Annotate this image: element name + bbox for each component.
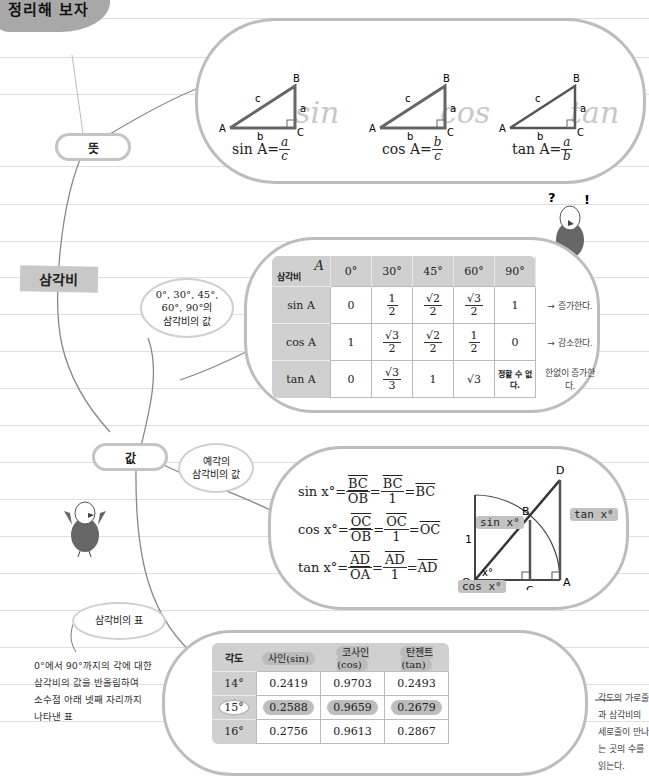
table-cell: 1 — [495, 287, 536, 324]
label-line: 60°, 90°의 — [156, 301, 219, 315]
script-word-tan: tan — [570, 95, 619, 130]
numerator: OC — [384, 515, 409, 530]
node-value: 값 — [92, 443, 168, 471]
formula-result: AD — [418, 561, 438, 574]
label-line: 삼각비의 값 — [156, 315, 219, 329]
table-cell: 12 — [372, 287, 413, 324]
angle-header: 90° — [495, 256, 536, 287]
numerator: BC — [346, 477, 370, 492]
label-line: 0°, 30°, 45°, — [156, 288, 219, 302]
denominator: 1 — [388, 492, 396, 506]
description-line: 0°에서 90°까지의 각에 대한 — [34, 657, 152, 674]
denominator: 1 — [392, 530, 400, 544]
header-angle: 각도 — [212, 643, 257, 672]
angle-header: 45° — [413, 256, 454, 287]
denominator: OA — [350, 568, 370, 582]
question-mark: ? — [548, 190, 556, 205]
corner-ratio-label: 삼각비 — [277, 270, 301, 283]
numerator: AD — [383, 553, 407, 568]
label-line: 예각의 — [192, 455, 240, 469]
label-acute-angles: 예각의 삼각비의 값 — [178, 443, 254, 493]
table-cell: √3 — [454, 361, 495, 398]
fraction: 12 — [387, 293, 398, 317]
svg-text:C: C — [297, 127, 304, 138]
fraction: BC1 — [381, 477, 405, 505]
mascot-bird-cheering-icon — [58, 495, 113, 560]
formula-lhs: tan x°= — [298, 561, 348, 574]
angle-cell: 15° — [212, 696, 257, 720]
unit-circle-formulas: sin x°= BCOB= BC1= BC cos x°= OCOB= OC1=… — [298, 472, 440, 586]
sin-cell: 0.2756 — [257, 720, 321, 744]
svg-text:a: a — [450, 103, 456, 114]
point-c: C — [526, 584, 534, 590]
cos-cell: 0.9613 — [321, 720, 385, 744]
svg-text:c: c — [255, 93, 261, 104]
numerator: a — [279, 136, 290, 150]
cell-value: 0.9659 — [327, 700, 378, 715]
angle-header: 30° — [372, 256, 413, 287]
svg-text:c: c — [405, 93, 411, 104]
point-d: D — [556, 464, 564, 477]
svg-text:c: c — [535, 93, 541, 104]
svg-text:A: A — [219, 123, 226, 134]
angle-cell: 14° — [212, 672, 257, 696]
angle-header: 60° — [454, 256, 495, 287]
angle-value: 15° — [218, 699, 250, 716]
fraction: 12 — [469, 330, 480, 354]
table-cell: √32 — [454, 287, 495, 324]
fraction: ADOA — [348, 553, 372, 581]
formula-fraction: bc — [432, 136, 444, 162]
row-header: cos A — [272, 324, 331, 361]
trend-text: 한없이 증가한다. — [545, 368, 596, 391]
table-cell: 1 — [413, 361, 454, 398]
cos-cell: 0.9659 — [321, 696, 385, 720]
formula-tan: tan A= ab — [512, 136, 572, 162]
formula-row: cos x°= OCOB= OC1= OC — [298, 510, 440, 548]
formula-lhs: cos A= — [382, 141, 432, 157]
description-line: 소수점 아래 넷째 자리까지 — [34, 691, 152, 708]
table-cell: 12 — [454, 324, 495, 361]
svg-text:a: a — [300, 103, 306, 114]
table-cell: 0 — [331, 287, 372, 324]
tan-cell: 0.2679 — [385, 696, 449, 720]
header-cos: 코사인(cos) — [321, 643, 385, 672]
header-tan: 탄젠트(tan) — [385, 643, 449, 672]
trig-value-table: 각도 사인(sin) 코사인(cos) 탄젠트(tan) 14° 0.2419 … — [212, 643, 449, 744]
note-line: 각도의 가로줄과 삼각비의 — [598, 690, 649, 724]
table-row-highlighted: 15° 0.2588 0.9659 0.2679 — [212, 696, 449, 720]
cell-value: 0.2588 — [263, 700, 314, 715]
table-cell: 0 — [331, 361, 372, 398]
node-meaning: 뜻 — [55, 133, 131, 161]
tag-tan: tan x° — [570, 508, 618, 521]
table-cell: 0 — [495, 324, 536, 361]
formula-lhs: tan A= — [512, 141, 561, 157]
formula-sin: sin A= ac — [232, 136, 290, 162]
root-node: 삼각비 — [20, 265, 98, 292]
table-corner: A 삼각비 — [272, 256, 331, 287]
numerator: BC — [381, 477, 405, 492]
sin-cell: 0.2588 — [257, 696, 321, 720]
exclamation-mark: ! — [584, 192, 590, 207]
description-line: 나타낸 표 — [34, 708, 152, 725]
formula-lhs: cos x°= — [298, 523, 349, 536]
description-line: 삼각비의 값을 반올림하여 — [34, 674, 152, 691]
fraction: OCOB — [349, 515, 374, 543]
triangle-sin: ABC cab — [219, 73, 306, 142]
label-trig-table: 삼각비의 표 — [72, 602, 166, 640]
formula-result: OC — [420, 523, 441, 536]
svg-text:C: C — [447, 127, 454, 138]
connector-line — [180, 350, 250, 380]
table-row: 16° 0.2756 0.9613 0.2867 — [212, 720, 449, 744]
corner-angle-label: A — [315, 258, 324, 273]
fraction: √22 — [424, 293, 442, 317]
reading-note: 각도의 가로줄과 삼각비의 세로줄이 만나는 곳의 수를 읽는다. — [598, 690, 649, 775]
formula-row: sin x°= BCOB= BC1= BC — [298, 472, 440, 510]
formula-lhs: sin A= — [232, 141, 279, 157]
radius-label: 1 — [465, 533, 472, 546]
trend-note: → 감소한다. — [536, 324, 599, 361]
svg-text:A: A — [369, 123, 376, 134]
fraction: √22 — [424, 330, 442, 354]
tan-cell: 0.2493 — [385, 672, 449, 696]
formula-fraction: ab — [561, 136, 572, 162]
formula-row: tan x°= ADOA= AD1= AD — [298, 548, 440, 586]
